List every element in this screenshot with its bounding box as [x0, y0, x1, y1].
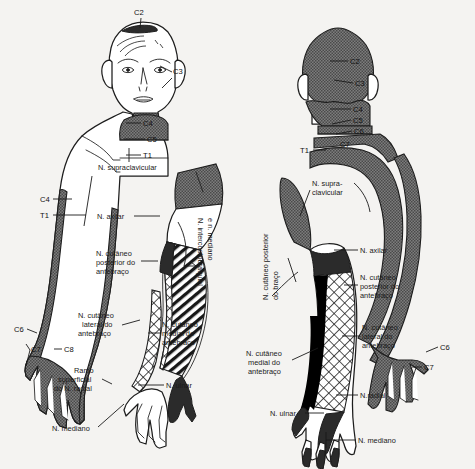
diagram-canvas: C2 C3 C4 C5 T1 C4 T1 C6 C7 [0, 0, 475, 469]
posterior-label-medial-antebraco-l2: medial do [248, 358, 280, 367]
posterior-label-radial: N.radial [360, 391, 386, 400]
anterior-label-medial-antebraco-l1: N. cutâneo [162, 320, 198, 329]
posterior-label-t1: T1 [300, 146, 309, 155]
anterior-label-c6: C6 [14, 325, 24, 334]
anterior-label-intercostobraquial-l2: e n. mediano [206, 218, 215, 261]
posterior-label-lateral-antebraco-l1: N. cutâneo [362, 323, 398, 332]
anterior-label-t1-arm: T1 [40, 211, 49, 220]
posterior-label-post-antebraco-l3: antebraço [360, 291, 393, 300]
anterior-label-c7: C7 [31, 345, 41, 354]
anterior-label-ulnar: N. ulnar [166, 381, 192, 390]
anterior-label-post-antebraco-l3: antebraço [96, 267, 129, 276]
anterior-label-medial-antebraco-l2: medial do [162, 329, 194, 338]
anterior-label-c4-neck: C4 [143, 119, 153, 128]
posterior-label-c2: C2 [350, 57, 360, 66]
posterior-label-medial-antebraco-l3: antebraço [248, 367, 281, 376]
anterior-label-lateral-antebraco-l3: antebraço [78, 329, 111, 338]
anterior-label-c3: C3 [173, 67, 183, 76]
anterior-label-lateral-antebraco-l1: N. cutâneo [78, 311, 114, 320]
posterior-label-supraclav-l1: N. supra- [312, 179, 343, 188]
anterior-label-ramo-l2: superficial [58, 375, 92, 384]
posterior-label-post-braco-l1: N. cutâneo posterior [261, 233, 270, 300]
anterior-label-t1-neck: T1 [143, 151, 152, 160]
anterior-label-c4-arm: C4 [40, 195, 50, 204]
posterior-label-supraclav-l2: clavicular [312, 188, 343, 197]
posterior-label-post-antebraco-l2: posterior do [360, 282, 399, 291]
anterior-label-lateral-antebraco-l2: lateral do [82, 320, 112, 329]
posterior-label-c4: C4 [353, 105, 363, 114]
anterior-label-c5: C5 [147, 135, 157, 144]
posterior-c5-region [318, 126, 372, 134]
anterior-label-mediano: N. mediano [52, 424, 90, 433]
anterior-label-post-antebraco-l2: posterior do [96, 258, 135, 267]
anterior-label-supraclavicular: N. supraclavicular [98, 163, 157, 172]
anterior-label-intercostobraquial-l1: N. intercostobraquial [196, 218, 205, 286]
posterior-label-c7-neck: C7 [340, 140, 350, 149]
posterior-label-c6-neck: C6 [354, 127, 364, 136]
posterior-label-c7-hand: C7 [424, 363, 434, 372]
posterior-label-post-antebraco-l1: N. cutâneo [360, 273, 396, 282]
posterior-median-hand-fingers [302, 440, 339, 469]
anterior-label-c2: C2 [134, 8, 144, 17]
posterior-label-mediano: N. mediano [358, 436, 396, 445]
dermatome-diagram-svg: C2 C3 C4 C5 T1 C4 T1 C6 C7 [0, 0, 475, 469]
posterior-label-medial-antebraco-l1: N. cutâneo [246, 349, 282, 358]
anterior-label-medial-antebraco-l3: antebraço [162, 338, 195, 347]
posterior-label-lateral-antebraco-l3: antebraço [362, 341, 395, 350]
anterior-label-post-antebraco-l1: N. cutâneo [96, 249, 132, 258]
anterior-label-ramo-l1: Ramo [74, 366, 94, 375]
posterior-label-c3: C3 [355, 79, 365, 88]
anterior-label-c8: C8 [64, 345, 74, 354]
anterior-label-ramo-l3: do N. radial [54, 384, 92, 393]
posterior-label-c6-hand: C6 [440, 343, 450, 352]
anterior-label-axilar: N. axilar [97, 212, 125, 221]
posterior-label-axilar: N. axilar [360, 246, 388, 255]
posterior-label-ulnar: N. ulnar [270, 409, 296, 418]
posterior-label-lateral-antebraco-l2: lateral do [362, 332, 392, 341]
posterior-label-c5: C5 [353, 116, 363, 125]
